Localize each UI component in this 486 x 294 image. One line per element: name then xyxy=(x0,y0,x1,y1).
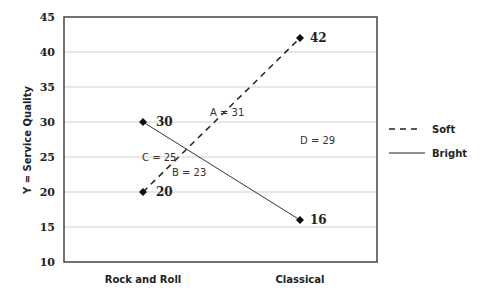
point-label-bright-classical: 16 xyxy=(310,213,327,227)
y-axis-label: Y = Service Quality xyxy=(22,85,33,195)
point-label-soft-classical: 42 xyxy=(310,31,327,45)
y-tick: 10 xyxy=(40,256,56,269)
x-category-label: Classical xyxy=(276,274,325,285)
y-tick: 15 xyxy=(40,221,55,234)
legend-bright-label: Bright xyxy=(432,148,467,159)
legend: Soft Bright xyxy=(389,124,467,159)
y-tick: 40 xyxy=(40,46,56,59)
series-bright-line xyxy=(143,122,300,220)
y-tick: 30 xyxy=(40,116,56,129)
point-label-soft-rock: 20 xyxy=(156,185,173,199)
marker-diamond xyxy=(296,216,304,224)
x-category-label: Rock and Roll xyxy=(105,274,182,285)
annotation-b: B = 23 xyxy=(172,167,206,178)
legend-soft-label: Soft xyxy=(432,124,455,135)
y-tick: 45 xyxy=(40,11,55,24)
y-tick: 25 xyxy=(40,151,55,164)
annotation-d: D = 29 xyxy=(300,135,335,146)
point-label-bright-rock: 30 xyxy=(156,115,173,129)
annotation-c: C = 25 xyxy=(142,152,176,163)
marker-diamond xyxy=(139,118,147,126)
y-axis-ticks: 45 40 35 30 25 20 15 10 xyxy=(40,11,56,269)
y-tick: 35 xyxy=(40,81,55,94)
interaction-chart: 45 40 35 30 25 20 15 10 Y = Service Qual… xyxy=(0,0,486,294)
y-tick: 20 xyxy=(40,186,56,199)
annotation-a: A = 31 xyxy=(210,107,244,118)
marker-diamond xyxy=(296,34,304,42)
